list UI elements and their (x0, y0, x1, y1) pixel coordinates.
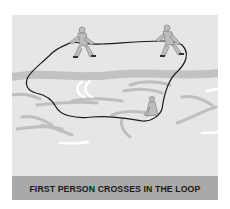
caption-text: FIRST PERSON CROSSES IN THE LOOP (30, 183, 201, 194)
illustration-panel: FIRST PERSON CROSSES IN THE LOOP (12, 15, 218, 200)
river-crossing-scene (12, 15, 218, 177)
caption-bar: FIRST PERSON CROSSES IN THE LOOP (12, 176, 218, 200)
